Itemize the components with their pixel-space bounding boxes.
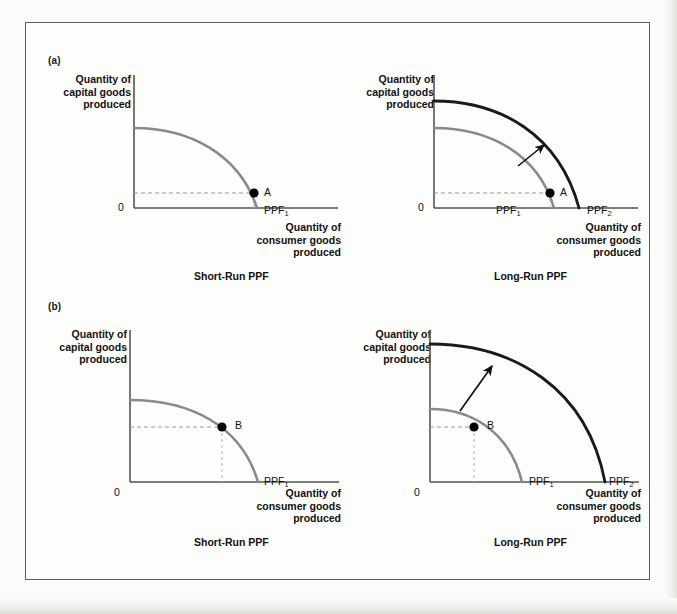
caption-b-short-run: Short-Run PPF <box>194 536 269 548</box>
chart-b-long-run <box>422 326 642 491</box>
y-axis-label-line3: produced <box>83 98 131 110</box>
x-axis-label-line1: Quantity of <box>586 221 641 233</box>
page-edge-shadow-right <box>665 0 677 614</box>
ppf-subscript-1: 1 <box>284 209 288 218</box>
chart-a-short-run-svg <box>126 71 341 216</box>
chart-a-short-run <box>126 71 341 216</box>
y-axis-label-line3: produced <box>79 353 127 365</box>
y-axis-label-a-short: Quantity of capital goods produced <box>46 73 131 111</box>
y-axis-label-line1: Quantity of <box>76 73 131 85</box>
point-label-b-long: B <box>487 419 494 431</box>
ppf-base-text: PPF <box>264 475 284 487</box>
ppf2-label-a-long: PPF2 <box>587 204 612 216</box>
y-axis-label-b-short: Quantity of capital goods produced <box>42 328 127 366</box>
figure-page: (a) Quantity of capital goods produced A <box>0 0 677 614</box>
chart-b-short-run <box>122 326 342 491</box>
y-axis-label-a-long: Quantity of capital goods produced <box>349 73 434 111</box>
caption-a-long-run: Long-Run PPF <box>494 270 567 282</box>
x-axis-label-line2: consumer goods <box>556 500 641 512</box>
caption-a-short-run: Short-Run PPF <box>194 270 269 282</box>
y-axis-label-line2: capital goods <box>59 341 127 353</box>
point-a-marker <box>249 188 258 197</box>
point-b-marker <box>217 422 226 431</box>
origin-label-b-long: 0 <box>414 486 420 498</box>
x-axis-label-line1: Quantity of <box>286 221 341 233</box>
ppf-base-text: PPF <box>496 204 516 216</box>
chart-a-long-run-svg <box>426 71 641 216</box>
point-label-a-long: A <box>560 186 567 198</box>
ppf-base-text: PPF <box>529 475 549 487</box>
ppf1-label-b-long: PPF1 <box>529 475 554 487</box>
y-axis-label-line2: capital goods <box>366 86 434 98</box>
y-axis-label-b-long: Quantity of capital goods produced <box>346 328 431 366</box>
ppf1-label-b-short: PPF1 <box>264 475 289 487</box>
ppf-base-text: PPF <box>587 204 607 216</box>
x-axis-label-a-long: Quantity of consumer goods produced <box>526 221 641 259</box>
x-axis-label-line2: consumer goods <box>256 500 341 512</box>
x-axis-label-a-short: Quantity of consumer goods produced <box>226 221 341 259</box>
curve-ppf2 <box>434 101 579 208</box>
y-axis-label-line2: capital goods <box>363 341 431 353</box>
x-axis-label-line3: produced <box>293 246 341 258</box>
y-axis-label-line1: Quantity of <box>72 328 127 340</box>
ppf-base-text: PPF <box>264 204 284 216</box>
outward-shift-arrow-icon <box>460 366 492 411</box>
x-axis-label-line3: produced <box>593 512 641 524</box>
ppf1-label-a-long: PPF1 <box>496 204 521 216</box>
origin-label-a-short: 0 <box>118 201 124 213</box>
page-edge-shadow-bottom <box>0 598 677 614</box>
curve-ppf1 <box>430 409 522 482</box>
x-axis-label-line3: produced <box>593 246 641 258</box>
origin-label-b-short: 0 <box>114 486 120 498</box>
curve-ppf1 <box>134 128 257 208</box>
y-axis-label-line2: capital goods <box>63 86 131 98</box>
chart-b-short-run-svg <box>122 326 342 491</box>
x-axis-label-line2: consumer goods <box>256 234 341 246</box>
point-b-marker <box>469 422 478 431</box>
curve-ppf1 <box>130 400 258 482</box>
ppf-base-text: PPF <box>609 475 629 487</box>
point-label-a-short: A <box>264 186 271 198</box>
x-axis-label-line2: consumer goods <box>556 234 641 246</box>
curve-ppf1 <box>434 128 554 208</box>
chart-a-long-run <box>426 71 641 216</box>
point-a-marker <box>545 188 554 197</box>
x-axis-label-line1: Quantity of <box>586 487 641 499</box>
panel-letter-a: (a) <box>48 55 61 66</box>
origin-label-a-long: 0 <box>418 201 424 213</box>
outward-shift-arrow-icon <box>518 145 544 166</box>
ppf1-label-a-short: PPF1 <box>264 204 289 216</box>
panel-letter-b: (b) <box>48 301 61 312</box>
ppf-subscript-1: 1 <box>516 209 520 218</box>
chart-b-long-run-svg <box>422 326 642 491</box>
caption-b-long-run: Long-Run PPF <box>494 536 567 548</box>
ppf2-label-b-long: PPF2 <box>609 475 634 487</box>
x-axis-label-line3: produced <box>293 512 341 524</box>
figure-frame: (a) Quantity of capital goods produced A <box>25 22 650 580</box>
x-axis-label-b-long: Quantity of consumer goods produced <box>526 487 641 525</box>
x-axis-label-line1: Quantity of <box>286 487 341 499</box>
point-label-b-short: B <box>235 419 242 431</box>
x-axis-label-b-short: Quantity of consumer goods produced <box>226 487 341 525</box>
ppf-subscript-2: 2 <box>607 209 611 218</box>
